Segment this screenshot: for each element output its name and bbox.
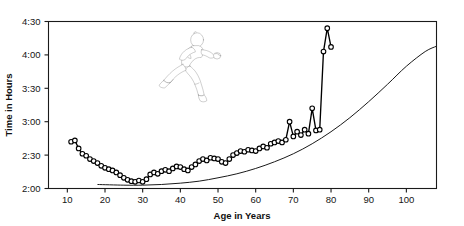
y-tick-label: 3:00 — [22, 116, 41, 127]
data-point — [291, 134, 296, 139]
x-tick-label: 60 — [250, 194, 261, 205]
x-tick-label: 10 — [62, 194, 73, 205]
data-point — [329, 45, 334, 50]
marathon-time-by-age-chart: 2:002:303:003:304:004:30 102030405060708… — [0, 0, 464, 226]
fitted-trend-curve — [97, 46, 436, 185]
data-point — [76, 146, 81, 151]
y-axis: 2:002:303:003:304:004:30 — [22, 16, 49, 194]
data-point — [306, 131, 311, 136]
data-point — [265, 145, 270, 150]
scan-artifact-left — [62, 0, 64, 7]
data-point — [73, 138, 78, 143]
data-point — [144, 177, 149, 182]
x-tick-label: 90 — [363, 194, 374, 205]
y-tick-label: 2:30 — [22, 150, 41, 161]
x-tick-label: 70 — [288, 194, 299, 205]
runner-icon — [159, 32, 221, 102]
x-axis-title: Age in Years — [214, 210, 271, 221]
data-point — [310, 106, 315, 111]
x-tick-label: 40 — [175, 194, 186, 205]
x-axis: 102030405060708090100 — [62, 189, 414, 205]
y-tick-label: 3:30 — [22, 83, 41, 94]
data-point — [321, 49, 326, 54]
y-axis-title: Time in Hours — [3, 73, 14, 136]
x-tick-label: 80 — [326, 194, 337, 205]
data-point — [223, 161, 228, 166]
y-tick-label: 4:00 — [22, 49, 41, 60]
data-point — [317, 127, 322, 132]
data-point — [299, 133, 304, 138]
x-tick-label: 20 — [100, 194, 111, 205]
data-point — [287, 119, 292, 124]
data-point — [302, 127, 307, 132]
x-tick-label: 50 — [213, 194, 224, 205]
y-tick-label: 4:30 — [22, 16, 41, 27]
data-point — [284, 137, 289, 142]
x-tick-label: 30 — [137, 194, 148, 205]
data-point — [325, 26, 330, 31]
scan-artifact-right — [118, 0, 120, 7]
plot-frame — [49, 22, 437, 189]
y-tick-label: 2:00 — [22, 183, 41, 194]
x-tick-label: 100 — [398, 194, 414, 205]
chart-container: 2:002:303:003:304:004:30 102030405060708… — [0, 0, 464, 226]
data-point — [227, 157, 232, 162]
